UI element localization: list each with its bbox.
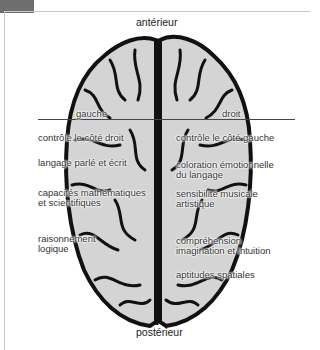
left-function-item: raisonnement logique	[38, 234, 96, 254]
anterior-label: antérieur	[136, 17, 177, 28]
right-function-item: compréhension imagination et intuition	[176, 236, 271, 256]
hemisphere-divider-line	[38, 119, 295, 120]
right-hemisphere	[160, 37, 251, 326]
right-function-item: aptitudes spatiales	[176, 270, 255, 280]
right-function-item: contrôle le côté gauche	[176, 133, 274, 143]
left-function-item: contrôle le côté droit	[38, 133, 124, 143]
left-function-item: capacités mathématiques et scientifiques	[38, 188, 146, 208]
left-hemisphere	[66, 38, 156, 326]
right-function-item: sensibilité musicale artistique	[176, 189, 258, 209]
left-hemisphere-title: gauche	[76, 109, 107, 119]
right-function-item: coloration émotionnelle du langage	[176, 160, 274, 180]
posterior-label: postérieur	[136, 327, 183, 338]
longitudinal-fissure	[157, 40, 159, 325]
right-hemisphere-title: droit	[222, 109, 240, 119]
left-function-item: langage parlé et écrit	[38, 158, 127, 168]
